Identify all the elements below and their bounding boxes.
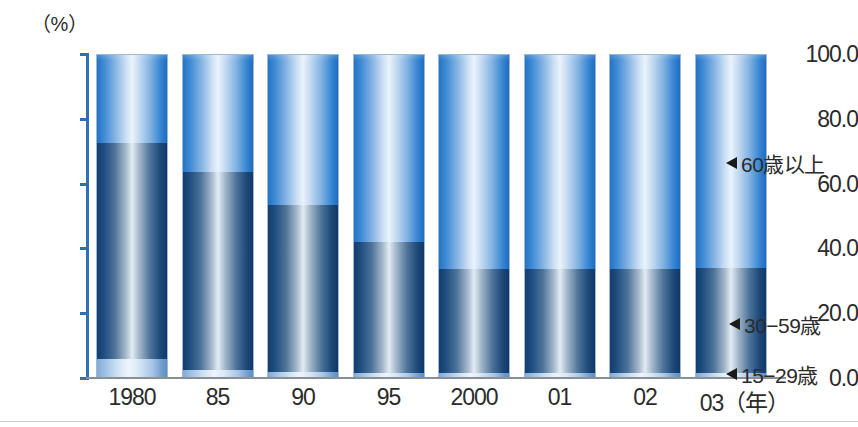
legend-callout-30-59: 30−59歳 — [729, 309, 821, 339]
y-axis-tick — [80, 53, 89, 56]
y-axis-unit-label: （%） — [31, 8, 87, 37]
x-axis-label-2000: 2000 — [450, 384, 497, 411]
bar-segment-30-59 — [353, 241, 425, 373]
x-axis-line — [86, 377, 786, 379]
bar-segment-30-59 — [182, 171, 254, 370]
bar-top-highlight — [182, 54, 254, 61]
bar-top-highlight — [524, 54, 596, 61]
bar-top-highlight — [353, 54, 425, 61]
y-axis-tick — [80, 118, 89, 121]
bar-2000 — [438, 54, 510, 378]
y-axis-tick — [80, 312, 89, 315]
bar-85 — [182, 54, 254, 378]
y-axis-tick — [80, 247, 89, 250]
x-axis-label-85: 85 — [206, 384, 230, 411]
x-axis-label-90: 90 — [291, 384, 315, 411]
bar-segment-30-59 — [438, 268, 510, 373]
legend-callout-15-29: 15−29歳 — [726, 359, 818, 389]
y-axis-tick-label: 100.0 — [782, 41, 858, 68]
bar-1980 — [96, 54, 168, 378]
left-arrow-icon — [726, 368, 737, 380]
bar-top-highlight — [695, 54, 767, 61]
bar-top-highlight — [609, 54, 681, 61]
bar-segment-60-and-over — [267, 54, 339, 205]
bar-segment-60-and-over — [609, 54, 681, 269]
bar-segment-60-and-over — [353, 54, 425, 242]
y-axis-tick-label: 40.0 — [782, 235, 858, 262]
bar-top-highlight — [96, 54, 168, 61]
bar-top-highlight — [438, 54, 510, 61]
bar-segment-15-29 — [96, 358, 168, 378]
x-axis-label-01: 01 — [548, 384, 572, 411]
legend-label-60-and-over: 60歳以上 — [741, 148, 825, 178]
bar-segment-30-59 — [267, 204, 339, 372]
bar-segment-30-59 — [96, 142, 168, 358]
x-axis-label-02: 02 — [633, 384, 657, 411]
legend-label-15-29: 15−29歳 — [741, 359, 818, 389]
bar-segment-60-and-over — [438, 54, 510, 269]
bar-segment-30-59 — [524, 268, 596, 373]
bar-segment-60-and-over — [524, 54, 596, 269]
y-axis-tick-label: 80.0 — [782, 105, 858, 132]
y-axis-tick — [80, 183, 89, 186]
bar-segment-60-and-over — [182, 54, 254, 172]
bar-segment-60-and-over — [96, 54, 168, 143]
x-axis-label-1980: 1980 — [108, 384, 155, 411]
bar-top-highlight — [267, 54, 339, 61]
bar-segment-30-59 — [609, 268, 681, 373]
bar-01 — [524, 54, 596, 378]
left-arrow-icon — [729, 318, 740, 330]
left-arrow-icon — [726, 157, 737, 169]
x-axis-label-95: 95 — [377, 384, 401, 411]
page-scan-artifact-line — [0, 421, 858, 422]
bar-90 — [267, 54, 339, 378]
x-axis-label-03: 03（年） — [700, 384, 790, 418]
bar-95 — [353, 54, 425, 378]
plot-area — [89, 54, 700, 378]
legend-callout-60-and-over: 60歳以上 — [726, 148, 825, 178]
legend-label-30-59: 30−59歳 — [744, 309, 821, 339]
chart-canvas: （%） 100.080.060.040.020.00.0 19808590952… — [0, 0, 858, 427]
bar-02 — [609, 54, 681, 378]
